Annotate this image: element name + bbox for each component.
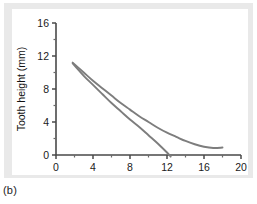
x-tick-label: 12 bbox=[161, 161, 173, 173]
figure-card: 0481216048121620Age (years)Tooth height … bbox=[4, 3, 253, 178]
plot-panel: 0481216048121620Age (years)Tooth height … bbox=[12, 9, 248, 175]
y-tick-label: 12 bbox=[37, 50, 49, 62]
y-tick-label: 8 bbox=[43, 83, 49, 95]
figure-root: 0481216048121620Age (years)Tooth height … bbox=[0, 0, 257, 204]
x-tick-label: 4 bbox=[90, 161, 96, 173]
y-tick-label: 4 bbox=[43, 116, 49, 128]
x-tick-label: 0 bbox=[53, 161, 59, 173]
x-tick-label: 16 bbox=[198, 161, 210, 173]
x-tick-label: 20 bbox=[235, 161, 247, 173]
y-tick-label: 16 bbox=[37, 17, 49, 29]
data-curve-lower-curve bbox=[73, 63, 171, 156]
x-tick-label: 8 bbox=[127, 161, 133, 173]
tooth-height-vs-age-chart: 0481216048121620Age (years)Tooth height … bbox=[12, 9, 248, 175]
figure-caption: (b) bbox=[3, 184, 17, 196]
y-tick-label: 0 bbox=[43, 149, 49, 161]
y-axis-title: Tooth height (mm) bbox=[15, 47, 27, 132]
